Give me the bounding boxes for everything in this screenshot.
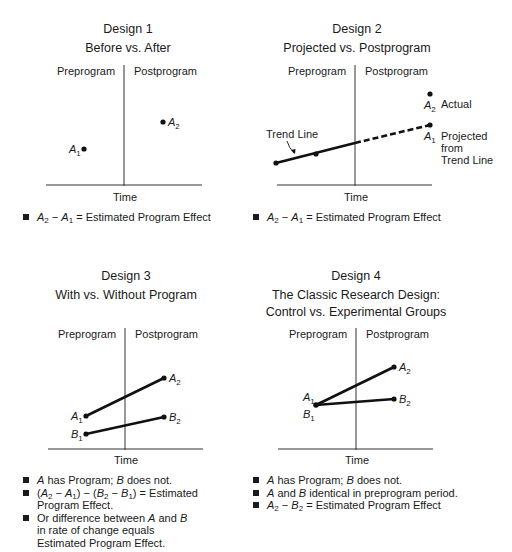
design-4-diagram: Preprogram Postprogram Time A1 B1 A2 B2: [278, 328, 433, 466]
design-3-pre-label: Preprogram: [58, 328, 116, 340]
design-4-point-b2: [391, 396, 396, 401]
design-3-note-3: Or difference between A and B in rate of…: [23, 512, 198, 550]
design-1-diagram: Preprogram Postprogram Time A1 A2: [46, 65, 202, 203]
design-1-notes: A2 − A1 = Estimated Program Effect: [23, 211, 253, 224]
design-2-post-label: Postprogram: [365, 65, 428, 77]
design-3-note-2: (A2 − A1) − (B2 − B1) = Estimated Progra…: [23, 487, 198, 512]
design-1-point-a1: [81, 146, 86, 151]
design-4-notes: A has Program; B does not. A and B ident…: [253, 474, 503, 512]
design-4-label-a2: A2: [398, 361, 411, 376]
design-2-trend-point-2: [313, 151, 318, 156]
design-2-projected-label-1: Projected: [441, 130, 487, 142]
design-4-time-label: Time: [345, 454, 369, 466]
design-2-diagram: Preprogram Postprogram Time Trend Line A…: [266, 65, 493, 203]
design-4-post-label: Postprogram: [366, 328, 429, 340]
design-2-time-label: Time: [344, 191, 368, 203]
design-1-pre-label: Preprogram: [57, 65, 115, 77]
design-3-post-label: Postprogram: [135, 328, 198, 340]
design-3-point-b1: [83, 431, 88, 436]
design-2-point-a1-projected: [427, 122, 432, 127]
design-1-label-a2: A2: [167, 116, 180, 131]
design-4-point-a2: [391, 364, 396, 369]
design-3-point-a1: [83, 413, 88, 418]
design-1-label-a1: A1: [68, 143, 81, 158]
design-2-projected-label-3: Trend Line: [441, 154, 493, 166]
design-1-post-label: Postprogram: [134, 65, 197, 77]
design-2-projection-line: [355, 125, 430, 143]
design-1-time-label: Time: [113, 191, 137, 203]
design-3-diagram: Preprogram Postprogram Time A1 A2 B1 B2: [48, 328, 203, 466]
design-3-notes: A has Program; B does not. (A2 − A1) − (…: [23, 474, 198, 549]
design-4-note-1: A has Program; B does not.: [253, 474, 503, 487]
design-3-label-a1: A1: [70, 410, 83, 425]
design-1-note-1: A2 − A1 = Estimated Program Effect: [23, 211, 253, 224]
design-3-label-b2: B2: [169, 411, 181, 426]
design-2-pre-label: Preprogram: [288, 65, 346, 77]
design-3-label-a2: A2: [168, 372, 181, 387]
design-2-trend-point-1: [273, 160, 278, 165]
design-4-label-b1: B1: [303, 408, 315, 423]
design-2-projected-label-2: from: [441, 142, 463, 154]
design-3-point-a2: [161, 375, 166, 380]
design-2-note-1: A2 − A1 = Estimated Program Effect: [253, 211, 493, 224]
design-2-actual-label: Actual: [441, 98, 472, 110]
design-4-label-b2: B2: [399, 393, 411, 408]
design-4-pre-label: Preprogram: [289, 328, 347, 340]
design-4-label-a1: A1: [302, 391, 315, 406]
design-2-label-a2: A2: [423, 99, 436, 114]
design-4-note-2: A and B identical in preprogram period.: [253, 487, 503, 500]
design-3-point-b2: [161, 414, 166, 419]
design-3-label-b1: B1: [71, 428, 83, 443]
design-2-label-a1: A1: [423, 130, 436, 145]
diagrams-canvas: Preprogram Postprogram Time A1 A2 Prepro…: [0, 0, 512, 552]
design-2-notes: A2 − A1 = Estimated Program Effect: [253, 211, 493, 224]
design-2-trend-line-label: Trend Line: [266, 128, 318, 140]
design-1-point-a2: [160, 119, 165, 124]
design-3-time-label: Time: [114, 454, 138, 466]
design-3-note-1: A has Program; B does not.: [23, 474, 198, 487]
design-4-note-3: A2 − B2 = Estimated Program Effect: [253, 499, 503, 512]
design-2-point-a2-actual: [427, 91, 432, 96]
